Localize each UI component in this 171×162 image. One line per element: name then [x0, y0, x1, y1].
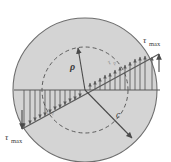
tau-max-top-right-subscript: max	[149, 40, 161, 47]
torsion-diagram-svg: τ max τ max ρ c τ ρ τ ρ	[0, 0, 171, 162]
torsion-figure: τ max τ max ρ c τ ρ τ ρ	[0, 0, 171, 162]
tau-max-bottom-left-subscript: max	[11, 137, 23, 144]
tau-max-bottom-left-symbol: τ	[5, 132, 9, 142]
label-tau-max-bottom-left: τ max	[5, 132, 23, 144]
label-rho: ρ	[69, 61, 75, 72]
tau-max-top-right-symbol: τ	[143, 35, 147, 45]
label-tau-max-top-right: τ max	[143, 35, 161, 47]
